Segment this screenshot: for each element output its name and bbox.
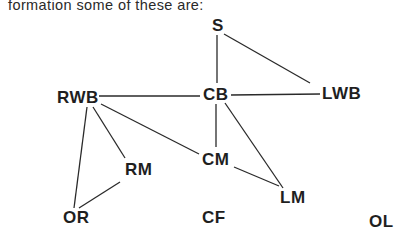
edge-cm-lm — [234, 167, 279, 186]
edge-rwb-cm — [101, 104, 199, 154]
formation-edges — [0, 0, 397, 234]
node-lm: LM — [280, 189, 306, 206]
node-cm: CM — [202, 151, 229, 168]
edge-rwb-or — [74, 107, 87, 208]
node-or: OR — [63, 209, 90, 226]
node-ol: OL — [369, 213, 394, 230]
node-rwb: RWB — [57, 89, 99, 106]
edge-s-lwb — [224, 34, 310, 83]
node-cf: CF — [202, 209, 226, 226]
node-s: S — [212, 17, 224, 34]
node-cb: CB — [203, 86, 229, 103]
edge-rm-or — [79, 182, 120, 208]
node-rm: RM — [125, 161, 152, 178]
edge-cb-lwb — [231, 94, 320, 95]
node-lwb: LWB — [322, 85, 361, 102]
edge-rwb-rm — [93, 107, 125, 158]
